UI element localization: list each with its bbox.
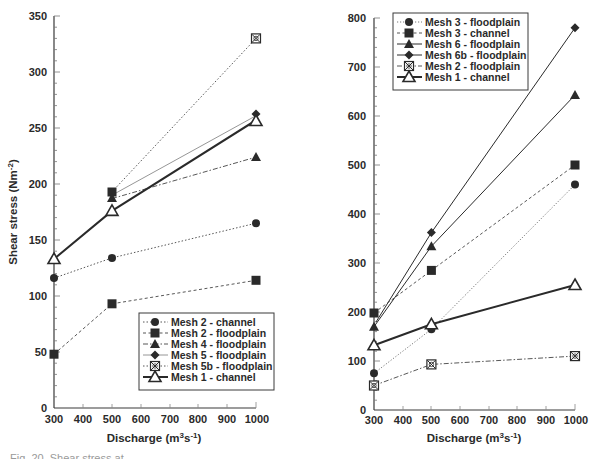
square-marker — [108, 299, 117, 308]
y-tick-label: 350 — [29, 10, 47, 22]
svg-text:Mesh 1 - channel: Mesh 1 - channel — [425, 71, 510, 83]
figure-canvas: 0 50 100 150 200 250 300 350 Shear stres… — [0, 0, 596, 459]
x-tick-label: 300 — [365, 414, 383, 426]
x-tick-label: 1000 — [564, 414, 588, 426]
left-y-axis-title: Shear stress (Nm-2) — [6, 159, 19, 265]
y-tick-label: 300 — [29, 66, 47, 78]
x-tick-label: 700 — [161, 413, 179, 425]
right-chart: 0 100 200 300 400 500 600 700 800 300 40… — [348, 12, 589, 444]
y-tick-label: 150 — [29, 234, 47, 246]
x-tick-label: 900 — [537, 414, 555, 426]
triangle-marker — [570, 90, 580, 99]
triangle-marker — [369, 322, 379, 331]
left-series-lines — [54, 38, 256, 354]
boxed-x-marker — [427, 360, 436, 369]
y-tick-label: 500 — [348, 159, 366, 171]
y-tick-label: 300 — [348, 257, 366, 269]
x-tick-label: 800 — [508, 414, 526, 426]
x-tick-label: 800 — [189, 413, 207, 425]
series-mesh-1-channel — [54, 120, 256, 259]
right-x-axis-title: Discharge (m3s-1) — [427, 431, 522, 444]
left-x-axis: 300 400 500 600 700 800 900 1000 Dischar… — [45, 402, 269, 444]
y-tick-label: 400 — [348, 208, 366, 220]
triangle-marker — [251, 152, 261, 161]
y-tick-label: 200 — [348, 306, 366, 318]
y-tick-label: 50 — [35, 346, 47, 358]
square-marker — [427, 266, 436, 275]
left-series-markers — [48, 34, 262, 359]
square-marker — [50, 350, 59, 359]
left-chart: 0 50 100 150 200 250 300 350 Shear stres… — [6, 10, 274, 444]
series-mesh-3-channel — [374, 165, 575, 313]
circle-marker — [50, 274, 58, 282]
y-tick-label: 200 — [29, 178, 47, 190]
right-legend: Mesh 3 - floodplain Mesh 3 - channel Mes… — [393, 13, 528, 90]
series-mesh-6-floodplain — [374, 95, 575, 327]
open-triangle-marker — [250, 115, 262, 126]
open-triangle-marker — [569, 279, 581, 290]
square-marker — [252, 276, 261, 285]
x-tick-label: 1000 — [245, 413, 269, 425]
right-x-axis: 300 400 500 600 700 800 900 1000 Dischar… — [365, 404, 588, 444]
x-tick-label: 900 — [218, 413, 236, 425]
x-tick-label: 500 — [422, 414, 440, 426]
x-tick-label: 400 — [394, 414, 412, 426]
y-tick-label: 250 — [29, 122, 47, 134]
series-mesh-5b-floodplain — [112, 38, 256, 191]
figure-caption: Fig. 20. Shear stress at... — [10, 451, 133, 459]
boxed-x-marker — [571, 352, 580, 361]
x-tick-label: 500 — [103, 413, 121, 425]
series-mesh-3-floodplain — [374, 185, 575, 374]
square-marker — [571, 161, 580, 170]
series-mesh-5-floodplain — [112, 116, 256, 196]
x-tick-label: 600 — [451, 414, 469, 426]
diamond-marker — [427, 228, 436, 237]
series-mesh-2-channel — [54, 223, 256, 278]
open-triangle-marker — [106, 205, 118, 216]
y-tick-label: 100 — [29, 290, 47, 302]
y-tick-label: 100 — [348, 355, 366, 367]
boxed-x-marker — [370, 381, 379, 390]
circle-marker — [252, 219, 260, 227]
circle-marker — [108, 254, 116, 262]
x-tick-label: 400 — [74, 413, 92, 425]
right-y-axis: 0 100 200 300 400 500 600 700 800 — [348, 12, 380, 416]
circle-marker — [370, 369, 378, 377]
y-tick-label: 600 — [348, 110, 366, 122]
series-mesh-2-floodplain — [374, 356, 575, 385]
series-mesh-4-floodplain — [112, 157, 256, 199]
circle-marker — [571, 181, 579, 189]
diamond-marker — [571, 23, 580, 32]
square-marker — [370, 309, 379, 318]
x-tick-label: 300 — [45, 413, 63, 425]
left-x-axis-title: Discharge (m3s-1) — [107, 431, 202, 444]
series-mesh-1-channel — [374, 285, 575, 345]
y-tick-label: 800 — [348, 12, 366, 24]
x-tick-label: 600 — [132, 413, 150, 425]
x-tick-label: 700 — [480, 414, 498, 426]
left-legend: Mesh 2 - channel Mesh 2 - floodplain Mes… — [139, 313, 274, 390]
boxed-x-marker — [252, 34, 261, 43]
svg-text:Mesh 1 - channel: Mesh 1 - channel — [171, 371, 256, 383]
y-tick-label: 700 — [348, 61, 366, 73]
